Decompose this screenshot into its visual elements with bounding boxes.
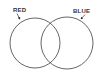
venn-diagram: RED BLUE: [0, 0, 102, 80]
red-set-label: RED: [13, 7, 27, 13]
blue-set-circle: [41, 17, 93, 69]
blue-pointer-arrow: [82, 15, 86, 19]
red-set-circle: [10, 18, 60, 68]
red-pointer-arrow: [17, 14, 20, 19]
blue-set-label: BLUE: [73, 8, 90, 14]
